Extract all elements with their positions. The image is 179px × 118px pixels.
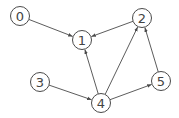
nodes-layer: 012345 — [11, 7, 171, 113]
edge-3-to-4 — [49, 85, 92, 100]
node-label: 3 — [36, 75, 44, 90]
node-2: 2 — [133, 9, 152, 28]
edge-4-to-1 — [85, 50, 98, 94]
node-3: 3 — [31, 73, 50, 92]
edge-5-to-2 — [145, 28, 158, 72]
node-label: 4 — [97, 96, 105, 111]
node-label: 1 — [78, 33, 86, 48]
directed-graph: 012345 — [0, 0, 179, 118]
node-label: 5 — [157, 74, 165, 89]
node-0: 0 — [11, 7, 30, 26]
edge-0-to-1 — [29, 19, 73, 36]
node-1: 1 — [73, 31, 92, 50]
edge-2-to-1 — [91, 21, 133, 36]
node-label: 0 — [16, 9, 24, 24]
node-4: 4 — [92, 94, 111, 113]
edges-layer — [29, 19, 158, 99]
node-5: 5 — [152, 72, 171, 91]
node-label: 2 — [138, 11, 146, 26]
edge-4-to-5 — [110, 84, 152, 99]
edge-4-to-2 — [105, 27, 138, 94]
